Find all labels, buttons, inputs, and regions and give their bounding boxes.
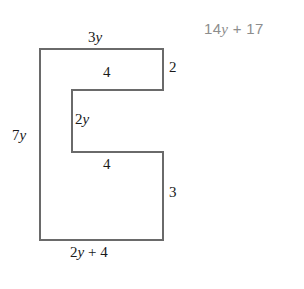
figure-page: 3y 2 4 2y 7y 4 3 2y + 4 14y + 17 xyxy=(0,0,304,289)
perimeter-answer: 14y + 17 xyxy=(204,21,264,37)
side-label-right-upper: 2 xyxy=(169,60,177,75)
side-label-left: 7y xyxy=(12,128,26,143)
side-label-notch-upper: 4 xyxy=(103,65,111,80)
side-label-notch-lower: 4 xyxy=(103,157,111,172)
variable-y: y xyxy=(96,29,103,45)
variable-y: y xyxy=(83,111,90,127)
side-label-top: 3y xyxy=(88,30,102,45)
side-label-bottom: 2y + 4 xyxy=(70,245,108,260)
side-label-inner-left: 2y xyxy=(75,112,89,127)
polygon-outline xyxy=(40,49,163,240)
variable-y: y xyxy=(20,127,27,143)
c-shape-polygon xyxy=(0,0,304,289)
side-label-right-lower: 3 xyxy=(169,185,177,200)
